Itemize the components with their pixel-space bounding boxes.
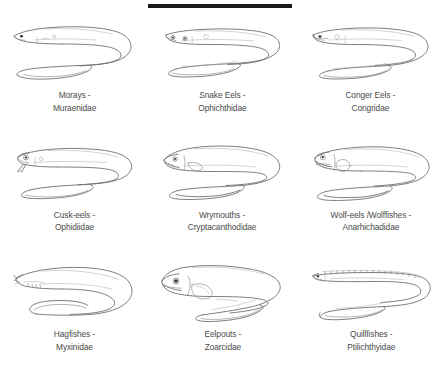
species-common-name: Eelpouts - [204, 328, 241, 341]
quillfish-illustration [301, 255, 441, 327]
species-label-morays: Morays - Muraenidae [53, 89, 96, 114]
moray-eel-illustration [4, 16, 144, 88]
species-cell-conger-eels: Conger Eels - Congridae [297, 16, 445, 136]
species-label-cusk-eels: Cusk-eels - Ophidiidae [54, 209, 95, 234]
species-family-name: Myxinidae [54, 341, 95, 354]
species-cell-quillfishes: Quillfishes - Ptilichthyidae [297, 255, 445, 375]
species-family-name: Ptilichthyidae [347, 341, 395, 354]
species-family-name: Ophidiidae [54, 221, 95, 234]
cusk-eel-illustration [4, 136, 144, 208]
species-common-name: Wrymouths - [188, 209, 257, 222]
species-family-name: Cryptacanthodidae [188, 221, 257, 234]
species-common-name: Hagfishes - [54, 328, 95, 341]
species-common-name: Snake Eels - [198, 89, 246, 102]
species-cell-morays: Morays - Muraenidae [0, 16, 148, 136]
species-label-eelpouts: Eelpouts - Zoarcidae [204, 328, 241, 353]
wolf-eel-illustration [301, 136, 441, 208]
eel-families-figure: Morays - Muraenidae [0, 0, 445, 375]
species-common-name: Wolf-eels /Wolffishes - [330, 209, 411, 222]
wrymouth-illustration [152, 136, 292, 208]
species-common-name: Cusk-eels - [54, 209, 95, 222]
species-family-name: Muraenidae [53, 102, 96, 115]
snake-eel-illustration [152, 16, 292, 88]
species-cell-cusk-eels: Cusk-eels - Ophidiidae [0, 136, 148, 256]
species-cell-snake-eels: Snake Eels - Ophichthidae [148, 16, 296, 136]
species-cell-hagfishes: Hagfishes - Myxinidae [0, 255, 148, 375]
species-cell-eelpouts: Eelpouts - Zoarcidae [148, 255, 296, 375]
hagfish-illustration [4, 255, 144, 327]
conger-eel-illustration [301, 16, 441, 88]
top-horizontal-rule [148, 4, 292, 8]
eelpout-illustration [152, 255, 292, 327]
species-family-name: Zoarcidae [204, 341, 241, 354]
species-label-snake-eels: Snake Eels - Ophichthidae [198, 89, 246, 114]
species-common-name: Quillfishes - [347, 328, 395, 341]
species-family-name: Anarhichadidae [330, 221, 411, 234]
species-common-name: Morays - [53, 89, 96, 102]
species-cell-wolf-eels: Wolf-eels /Wolffishes - Anarhichadidae [297, 136, 445, 256]
species-family-name: Congridae [346, 102, 396, 115]
species-cell-wrymouths: Wrymouths - Cryptacanthodidae [148, 136, 296, 256]
species-label-quillfishes: Quillfishes - Ptilichthyidae [347, 328, 395, 353]
species-common-name: Conger Eels - [346, 89, 396, 102]
species-label-wolf-eels: Wolf-eels /Wolffishes - Anarhichadidae [330, 209, 411, 234]
species-label-conger-eels: Conger Eels - Congridae [346, 89, 396, 114]
species-family-name: Ophichthidae [198, 102, 246, 115]
species-label-wrymouths: Wrymouths - Cryptacanthodidae [188, 209, 257, 234]
species-grid: Morays - Muraenidae [0, 16, 445, 375]
species-label-hagfishes: Hagfishes - Myxinidae [54, 328, 95, 353]
